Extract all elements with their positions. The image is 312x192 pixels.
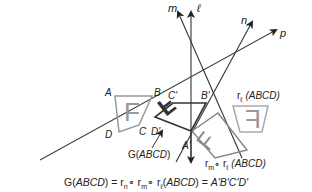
label-rm-rl-abcd: rm∘ rℓ (ABCD) — [205, 159, 266, 171]
line-label-l: ℓ — [197, 3, 201, 14]
vertex-label-b: B — [154, 88, 161, 98]
vertex-label-d: D — [105, 130, 112, 140]
formula-eq-r: ) = r — [105, 176, 124, 188]
svg-text:F: F — [245, 104, 261, 134]
arg-abcd: (ABCD) — [243, 90, 280, 101]
line-label-m: m — [168, 3, 177, 14]
formula-result: A'B'C'D' — [211, 176, 248, 188]
formula-arg: ABCD — [76, 176, 105, 188]
line-label-n: n — [241, 15, 247, 26]
arg-abcd: ABCD — [139, 149, 167, 160]
g-close: ) — [167, 149, 170, 160]
vertex-label-c: C — [139, 127, 146, 137]
line-label-p: p — [280, 28, 286, 39]
vertex-label-b-prime: B' — [201, 91, 210, 101]
vertex-label-c-prime: C' — [168, 91, 177, 101]
formula-arg: ABCD — [166, 176, 195, 188]
glide-formula: G(ABCD) = rn∘ rm∘ rℓ(ABCD) = A'B'C'D' — [0, 176, 312, 190]
svg-text:F: F — [191, 127, 221, 155]
label-g-abcd: G(ABCD) — [128, 150, 170, 160]
reflected-quad-rl: F — [233, 104, 268, 134]
g-open: G( — [128, 149, 139, 160]
formula-g: G( — [64, 176, 76, 188]
vertex-label-a: A — [105, 88, 112, 98]
vertex-label-d-prime: D' — [151, 127, 160, 137]
vertex-label-a-prime: A' — [182, 141, 191, 151]
label-rl-abcd: rℓ (ABCD) — [237, 91, 280, 103]
formula-compose: ∘ r — [128, 176, 141, 188]
formula-eq: ) = — [195, 176, 210, 188]
arg-abcd: (ABCD) — [229, 158, 266, 169]
formula-compose: ∘ r — [147, 176, 160, 188]
svg-text:F: F — [124, 97, 140, 127]
